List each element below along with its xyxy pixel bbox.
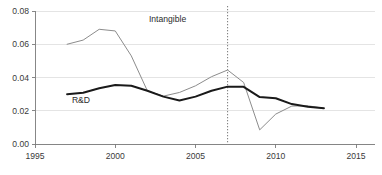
x-tick-label-1995: 1995 (25, 151, 44, 161)
x-tick-label-2000: 2000 (106, 151, 125, 161)
tick-marks-group (32, 11, 357, 148)
intangible-label: Intangible (149, 14, 186, 24)
x-tick-label-2010: 2010 (266, 151, 285, 161)
x-tick-label-2015: 2015 (346, 151, 365, 161)
series-line-r-d (67, 85, 324, 108)
chart-canvas: 0.000.020.040.060.08 1995200020052010201… (0, 0, 382, 175)
x-axis-tick-labels: 19952000200520102015 (25, 151, 365, 161)
y-axis-tick-labels: 0.000.020.040.060.08 (12, 6, 29, 149)
rd-label: R&D (72, 95, 90, 105)
y-tick-label-0.06: 0.06 (12, 39, 29, 49)
y-tick-label-0.04: 0.04 (12, 73, 29, 83)
x-tick-label-2005: 2005 (186, 151, 205, 161)
y-tick-label-0.08: 0.08 (12, 6, 29, 16)
y-tick-label-0.02: 0.02 (12, 106, 29, 116)
y-tick-label-0.00: 0.00 (12, 139, 29, 149)
gridlines-group (35, 11, 375, 144)
line-chart-figure: 0.000.020.040.060.08 1995200020052010201… (0, 0, 382, 175)
